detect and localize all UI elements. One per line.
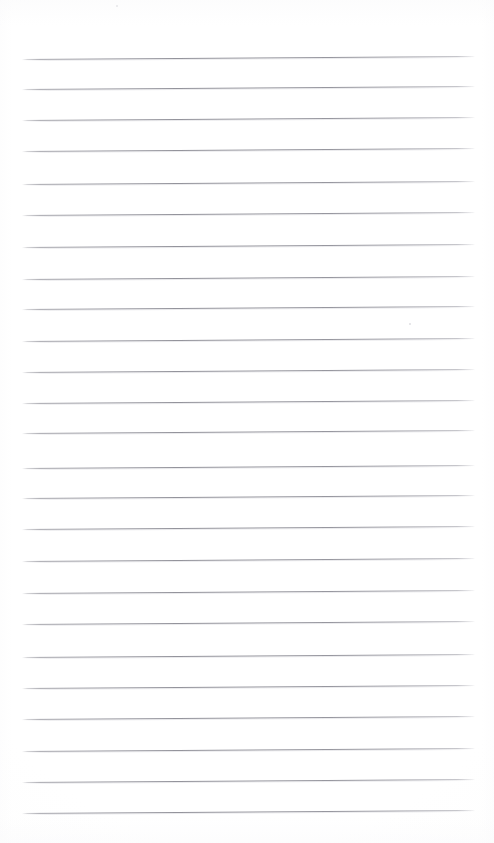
- rule-line: [22, 654, 475, 658]
- rule-line: [22, 117, 475, 121]
- ruled-lines-layer: [0, 0, 494, 843]
- rule-line: [22, 748, 475, 752]
- rule-line: [22, 400, 475, 404]
- rule-line: [22, 430, 475, 434]
- scanned-page: [0, 0, 494, 843]
- rule-line: [22, 244, 475, 248]
- rule-line: [22, 212, 475, 216]
- rule-line: [22, 306, 475, 310]
- rule-line: [22, 465, 475, 469]
- rule-line: [22, 338, 475, 342]
- rule-line: [22, 621, 475, 625]
- rule-line: [22, 558, 475, 562]
- rule-line: [22, 276, 475, 280]
- rule-line: [22, 526, 475, 530]
- rule-line: [22, 148, 475, 152]
- rule-line: [22, 181, 475, 185]
- rule-line: [22, 56, 475, 60]
- rule-line: [22, 495, 475, 499]
- rule-line: [22, 779, 475, 783]
- rule-line: [22, 590, 475, 594]
- rule-line: [22, 810, 475, 814]
- rule-line: [22, 369, 475, 373]
- rule-line: [22, 716, 475, 720]
- rule-line: [22, 685, 475, 689]
- rule-line: [22, 86, 475, 90]
